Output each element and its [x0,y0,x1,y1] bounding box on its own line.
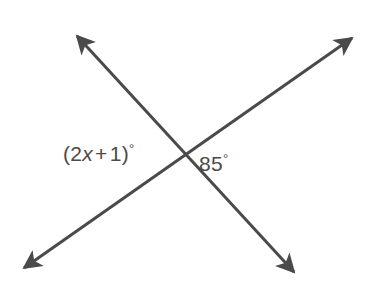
angle-label-right-measure: 85° [199,152,228,174]
left-variable: x [82,142,93,165]
left-operator: + [93,142,110,165]
right-value: 85 [199,152,223,175]
degree-symbol-icon: ° [223,151,229,166]
geometry-figure: (2x+1)° 85° [0,0,375,296]
left-close-paren: ) [122,142,129,165]
left-constant: 1 [110,142,122,165]
angle-label-left-expression: (2x+1)° [63,142,134,164]
left-coefficient: 2 [70,142,82,165]
degree-symbol-icon: ° [129,141,135,156]
intersecting-lines-svg [0,0,375,296]
